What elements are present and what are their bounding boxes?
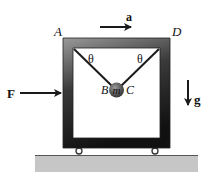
strings <box>74 49 159 86</box>
mass-label: m <box>113 84 121 96</box>
acceleration-arrow: a <box>100 10 132 27</box>
force-label: F <box>7 86 15 101</box>
ground <box>35 155 198 172</box>
theta-left-label: θ <box>88 52 94 66</box>
gravity-label: g <box>194 92 201 107</box>
corner-d-label: D <box>171 24 182 39</box>
acceleration-label: a <box>126 10 132 24</box>
theta-right-label: θ <box>137 52 143 66</box>
gravity-arrow: g <box>188 80 201 107</box>
wheels <box>76 148 158 154</box>
force-arrow: F <box>7 86 61 101</box>
point-c-label: C <box>126 83 135 97</box>
physics-diagram: m B C θ θ A D a F g <box>0 0 214 181</box>
wheel-left <box>76 148 82 154</box>
corner-a-label: A <box>53 24 62 39</box>
wheel-right <box>152 148 158 154</box>
point-b-label: B <box>101 83 109 97</box>
